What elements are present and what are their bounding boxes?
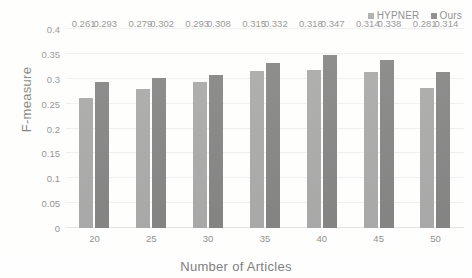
bar-value-label: 0.279 <box>129 19 153 29</box>
y-axis-tick: 0.3 <box>47 73 60 84</box>
y-axis-tick: 0.25 <box>42 98 61 109</box>
x-axis-tick: 30 <box>203 233 214 244</box>
y-axis-tick: 0.1 <box>47 173 60 184</box>
bar-hypner-30[interactable]: 0.293 <box>193 29 207 228</box>
y-axis-tick: 0.15 <box>42 148 61 159</box>
bar-value-label: 0.314 <box>356 19 380 29</box>
bar: 0.314 <box>364 72 378 228</box>
bar-ours-20[interactable]: 0.293 <box>95 29 109 228</box>
bar-value-label: 0.314 <box>434 19 458 29</box>
bar-group: 0.2810.31450 <box>412 29 458 228</box>
bar-group: 0.3140.33845 <box>356 29 402 228</box>
bar-hypner-45[interactable]: 0.314 <box>364 29 378 228</box>
x-axis-tick: 45 <box>373 233 384 244</box>
bar-group: 0.3180.34740 <box>299 29 345 228</box>
y-axis-title: F-measure <box>19 30 34 170</box>
bar-ours-25[interactable]: 0.302 <box>152 29 166 228</box>
x-axis-tick: 20 <box>89 233 100 244</box>
bar-value-label: 0.293 <box>185 19 209 29</box>
bar-value-label: 0.302 <box>150 19 174 29</box>
bar-group: 0.3150.33235 <box>242 29 288 228</box>
y-axis-tick: 0 <box>55 223 60 234</box>
bar: 0.314 <box>436 72 450 228</box>
bar-ours-40[interactable]: 0.347 <box>323 29 337 228</box>
x-axis-tick: 25 <box>146 233 157 244</box>
bar-hypner-40[interactable]: 0.318 <box>307 29 321 228</box>
bar-group: 0.2930.30830 <box>185 29 231 228</box>
x-axis-tick: 50 <box>430 233 441 244</box>
x-axis-title: Number of Articles <box>0 259 472 274</box>
bar-ours-35[interactable]: 0.332 <box>266 29 280 228</box>
bar-value-label: 0.318 <box>299 19 323 29</box>
bar: 0.308 <box>209 75 223 228</box>
bar: 0.347 <box>323 55 337 228</box>
bar: 0.281 <box>420 88 434 228</box>
y-axis-tick: 0.2 <box>47 123 60 134</box>
x-axis-tick: 35 <box>260 233 271 244</box>
bar-hypner-25[interactable]: 0.279 <box>136 29 150 228</box>
bar: 0.338 <box>380 60 394 228</box>
bar-groups: 0.2610.293200.2790.302250.2930.308300.31… <box>66 29 464 228</box>
bar-value-label: 0.332 <box>264 19 288 29</box>
y-axis-tick: 0.05 <box>42 198 61 209</box>
plot-area: 00.050.10.150.20.250.30.350.4 0.2610.293… <box>66 29 464 228</box>
bar-hypner-50[interactable]: 0.281 <box>420 29 434 228</box>
bar-value-label: 0.347 <box>321 19 345 29</box>
bar-value-label: 0.261 <box>72 19 96 29</box>
bar-value-label: 0.308 <box>207 19 231 29</box>
bar: 0.318 <box>307 70 321 228</box>
bar-ours-45[interactable]: 0.338 <box>380 29 394 228</box>
bar-value-label: 0.338 <box>378 19 402 29</box>
bar-hypner-20[interactable]: 0.261 <box>79 29 93 228</box>
bar: 0.293 <box>193 82 207 228</box>
bar-group: 0.2790.30225 <box>128 29 174 228</box>
bar-hypner-35[interactable]: 0.315 <box>250 29 264 228</box>
bar-ours-30[interactable]: 0.308 <box>209 29 223 228</box>
bar: 0.315 <box>250 71 264 228</box>
bar: 0.332 <box>266 63 280 228</box>
y-axis-tick: 0.35 <box>42 48 61 59</box>
bar-group: 0.2610.29320 <box>71 29 117 228</box>
bar: 0.302 <box>152 78 166 228</box>
bar-value-label: 0.293 <box>93 19 117 29</box>
chart-container: HYPNER Ours F-measure 00.050.10.150.20.2… <box>0 0 472 278</box>
x-axis-tick: 40 <box>317 233 328 244</box>
bar-value-label: 0.315 <box>242 19 266 29</box>
bar-value-label: 0.281 <box>413 19 437 29</box>
bar: 0.261 <box>79 98 93 228</box>
y-axis-tick: 0.4 <box>47 24 60 35</box>
bar: 0.279 <box>136 89 150 228</box>
bar: 0.293 <box>95 82 109 228</box>
bar-ours-50[interactable]: 0.314 <box>436 29 450 228</box>
